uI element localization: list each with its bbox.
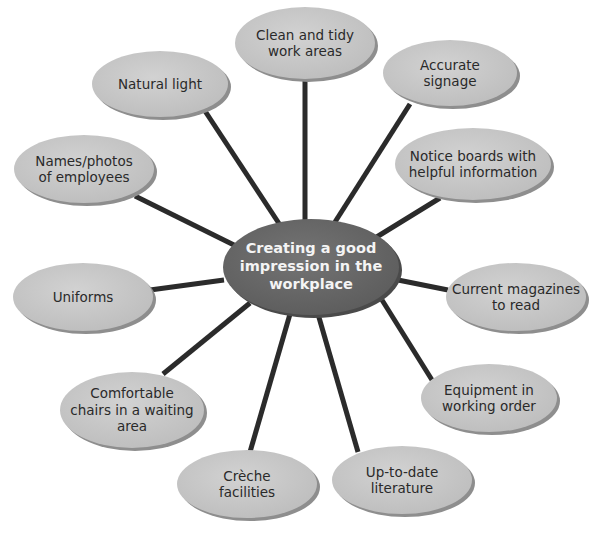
node-ellipse xyxy=(395,128,551,200)
node-up-to-date-literature xyxy=(332,446,475,517)
node-names-photos xyxy=(14,135,157,206)
connector-uniforms xyxy=(150,280,224,290)
node-ellipse xyxy=(235,7,375,79)
connector-equipment xyxy=(382,300,432,380)
node-ellipse xyxy=(92,51,228,117)
node-ellipse xyxy=(14,135,154,203)
connector-creche xyxy=(250,314,290,452)
node-uniforms xyxy=(13,263,156,334)
node-creche xyxy=(177,450,320,521)
node-comfortable-chairs xyxy=(60,372,207,451)
node-ellipse xyxy=(446,263,586,331)
node-ellipse xyxy=(177,450,317,518)
node-clean-tidy xyxy=(235,7,378,82)
node-current-magazines xyxy=(446,263,589,334)
connector-natural-light xyxy=(205,111,280,225)
connector-comfortable-chairs xyxy=(163,303,250,374)
node-ellipse xyxy=(332,446,472,514)
connector-notice-boards xyxy=(375,198,440,238)
node-ellipse xyxy=(383,40,517,106)
node-notice-boards xyxy=(395,128,554,203)
diagram-canvas xyxy=(0,0,606,542)
node-ellipse xyxy=(60,372,204,448)
connector-up-to-date-literature xyxy=(318,314,358,452)
node-equipment xyxy=(421,364,560,435)
node-ellipse xyxy=(13,263,153,331)
node-natural-light xyxy=(92,51,231,120)
node-accurate-signage xyxy=(383,40,520,109)
connector-names-photos xyxy=(135,196,240,248)
center-ellipse xyxy=(223,219,399,315)
node-ellipse xyxy=(421,364,557,432)
connector-current-magazines xyxy=(398,280,448,290)
